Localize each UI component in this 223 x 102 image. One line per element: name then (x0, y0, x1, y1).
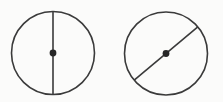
right-circle-center-dot (163, 50, 170, 57)
diagram-canvas: Two circles each drawn with a single dia… (0, 0, 223, 102)
two-circles-diagram (0, 0, 223, 102)
right-circle-group (125, 12, 208, 95)
left-circle-center-dot (50, 50, 57, 57)
left-circle-group (12, 12, 95, 95)
